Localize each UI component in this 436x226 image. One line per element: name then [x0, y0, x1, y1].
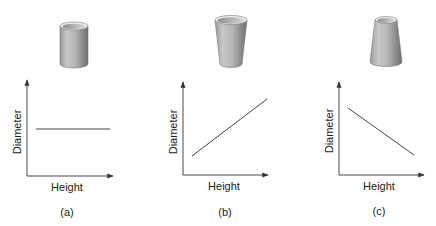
- x-axis-label: Height: [51, 181, 83, 193]
- x-axis-label: Height: [208, 180, 240, 192]
- cup-narrowing-icon: [370, 17, 402, 67]
- panel-caption: (b): [218, 206, 231, 218]
- y-axis-label: Diameter: [323, 108, 335, 153]
- panel-a: Diameter Height (a): [11, 22, 113, 218]
- cylinder-icon: [60, 22, 88, 68]
- y-axis-label: Diameter: [11, 109, 23, 154]
- panel-caption: (c): [373, 205, 386, 217]
- panel-b: Diameter Height (b): [167, 16, 268, 219]
- panel-c: Diameter Height (c): [323, 17, 424, 218]
- y-axis-label: Diameter: [167, 109, 179, 154]
- x-axis-label: Height: [363, 180, 395, 192]
- panel-caption: (a): [60, 206, 73, 218]
- decreasing-line: [348, 108, 414, 155]
- cup-widening-icon: [215, 16, 247, 68]
- increasing-line: [192, 99, 267, 156]
- diagram-canvas: Diameter Height (a) Diameter Height (b) …: [0, 0, 436, 226]
